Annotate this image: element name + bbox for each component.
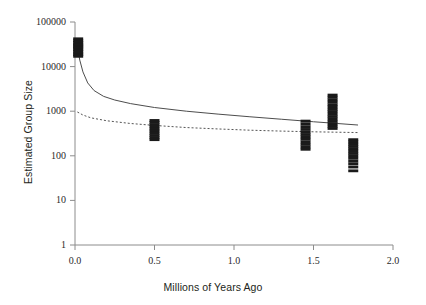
y-axis-title: Estimated Group Size <box>22 42 34 222</box>
solid-regression-curve <box>77 47 358 125</box>
data-point-marker <box>301 143 311 146</box>
y-tick-label-100: 100 <box>4 150 66 161</box>
data-point-marker <box>348 150 358 153</box>
data-point-marker <box>328 96 338 99</box>
data-point-marker <box>301 133 311 136</box>
x-axis-title: Millions of Years Ago <box>0 281 426 293</box>
x-tick-label-1-5: 1.5 <box>294 255 334 266</box>
data-points-layer <box>73 37 358 172</box>
x-tick-label-0-5: 0.5 <box>135 255 175 266</box>
data-point-marker <box>301 141 311 144</box>
y-tick-label-1: 1 <box>4 239 66 250</box>
data-point-marker <box>301 120 311 123</box>
y-tick-label-10000: 10000 <box>4 61 66 72</box>
data-point-marker <box>348 160 358 163</box>
data-point-marker <box>348 154 358 157</box>
data-point-marker <box>328 118 338 121</box>
x-axis-ticks <box>75 245 393 250</box>
data-point-marker <box>73 55 83 58</box>
y-tick-label-10: 10 <box>4 194 66 205</box>
regression-curves-layer <box>77 47 358 132</box>
x-tick-label-1-0: 1.0 <box>214 255 254 266</box>
data-point-marker <box>348 169 358 172</box>
data-point-marker <box>348 162 358 165</box>
data-point-marker <box>150 138 160 141</box>
data-point-marker <box>301 125 311 128</box>
data-point-marker <box>328 127 338 130</box>
data-point-marker <box>328 105 338 108</box>
x-tick-label-0-0: 0.0 <box>55 255 95 266</box>
data-point-marker <box>301 131 311 134</box>
data-point-marker <box>301 148 311 151</box>
y-tick-label-100000: 100000 <box>4 16 66 27</box>
chart-container: 100000 10000 1000 100 10 1 0.0 0.5 1.0 1… <box>0 0 426 305</box>
x-tick-label-2-0: 2.0 <box>373 255 413 266</box>
data-point-marker <box>348 157 358 160</box>
axis-lines <box>75 22 393 245</box>
data-point-marker <box>328 113 338 116</box>
data-point-marker <box>301 138 311 141</box>
data-point-marker <box>301 128 311 131</box>
data-point-marker <box>348 166 358 169</box>
data-point-marker <box>328 120 338 123</box>
data-point-marker <box>328 101 338 104</box>
data-point-marker <box>328 110 338 113</box>
data-point-marker <box>328 115 338 118</box>
data-point-marker <box>301 122 311 125</box>
y-tick-label-1000: 1000 <box>4 105 66 116</box>
